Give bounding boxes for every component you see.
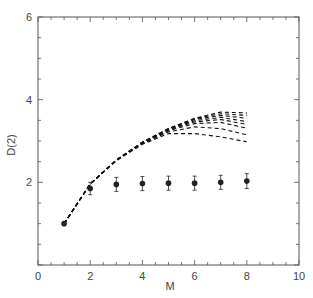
x-tick-label: 8 [244, 270, 250, 282]
x-tick-label: 10 [293, 270, 305, 282]
axis-ticks [38, 17, 299, 265]
y-tick-label: 6 [26, 11, 32, 23]
plot-frame [38, 17, 299, 265]
data-point [166, 180, 172, 186]
dashed-curves [64, 112, 247, 224]
y-tick-label: 4 [26, 94, 32, 106]
data-point [218, 180, 224, 186]
y-tick-labels: 246 [26, 11, 32, 188]
data-point [192, 180, 198, 186]
curve-8 [64, 134, 247, 224]
curve-2 [64, 114, 247, 224]
data-point [244, 178, 250, 184]
curve-3 [64, 115, 247, 223]
y-tick-label: 2 [26, 176, 32, 188]
data-point [87, 186, 93, 192]
x-tick-label: 4 [139, 270, 145, 282]
plot-svg: 0246810 246 M D(2) [0, 0, 313, 298]
x-tick-label: 6 [192, 270, 198, 282]
curve-1 [64, 112, 247, 224]
data-point [114, 182, 120, 188]
data-points [61, 174, 249, 227]
x-tick-label: 0 [35, 270, 41, 282]
y-axis-label: D(2) [5, 134, 17, 155]
x-tick-label: 2 [87, 270, 93, 282]
curve-4 [64, 117, 247, 223]
data-point [61, 221, 67, 227]
data-point [140, 181, 146, 187]
chart-container: 0246810 246 M D(2) [0, 0, 313, 298]
x-axis-label: M [165, 280, 174, 292]
